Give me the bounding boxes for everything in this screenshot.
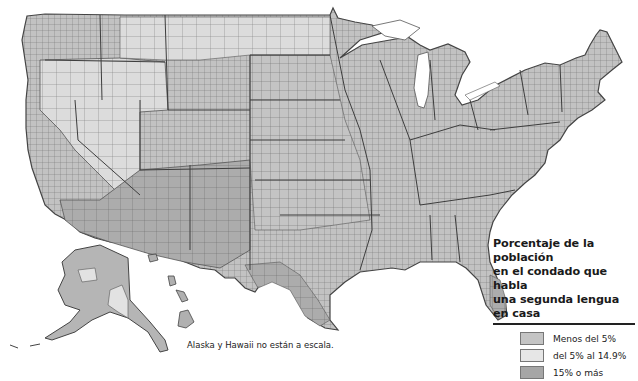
- legend-label-high: 15% o más: [553, 368, 603, 378]
- legend-title-line-1: Porcentaje de la población: [493, 237, 635, 265]
- legend-title-line-2: en el condado que habla: [493, 265, 635, 293]
- lake-superior: [372, 20, 420, 40]
- legend-item-high: 15% o más: [520, 364, 635, 381]
- legend-swatch-low: [520, 332, 544, 345]
- scale-caption: Alaska y Hawaii no están a escala.: [187, 340, 334, 350]
- legend-swatch-mid: [520, 349, 544, 362]
- legend-label-mid: del 5% al 14.9%: [553, 351, 626, 361]
- legend-label-low: Menos del 5%: [553, 334, 616, 344]
- legend: Porcentaje de la población en el condado…: [493, 237, 635, 381]
- alaska: [10, 245, 168, 352]
- legend-item-low: Menos del 5%: [520, 330, 635, 347]
- legend-swatch-high: [520, 366, 544, 379]
- hawaii: [148, 254, 194, 328]
- legend-item-mid: del 5% al 14.9%: [520, 347, 635, 364]
- legend-title: Porcentaje de la población en el condado…: [493, 237, 635, 321]
- legend-divider: [493, 323, 635, 325]
- legend-title-line-3: una segunda lengua en casa: [493, 293, 635, 321]
